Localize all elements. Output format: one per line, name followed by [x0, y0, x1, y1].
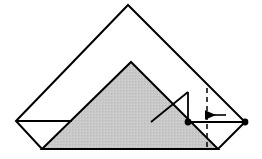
fold-diagram-svg [0, 0, 262, 159]
dimension-right-dot [242, 119, 249, 126]
dimension-left-dot [185, 119, 192, 126]
figure-container [0, 0, 262, 159]
